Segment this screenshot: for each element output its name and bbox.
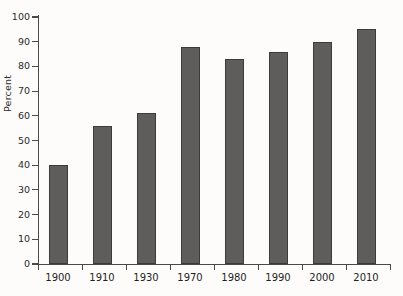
x-axis-tick <box>214 264 215 270</box>
bar-1970 <box>181 47 200 264</box>
x-axis-tick-label: 2000 <box>299 272 345 283</box>
bar-1900 <box>49 165 68 264</box>
x-axis-tick-label: 1930 <box>123 272 169 283</box>
x-axis-tick <box>126 264 127 270</box>
x-axis-tick <box>38 264 39 270</box>
plot-area <box>38 17 390 264</box>
x-axis-tick-label: 1990 <box>255 272 301 283</box>
bar-1990 <box>269 52 288 264</box>
y-axis-tick-label: 70 <box>0 85 30 96</box>
x-axis-tick-label: 1900 <box>35 272 81 283</box>
y-axis-tick <box>32 66 38 67</box>
y-axis-tick-label: 20 <box>0 209 30 220</box>
bar-2000 <box>313 42 332 264</box>
x-axis-tick <box>302 264 303 270</box>
bar-chart: Percent 01020304050607080901001900191019… <box>0 0 403 296</box>
y-axis-tick <box>32 140 38 141</box>
y-axis-title: Percent <box>2 42 13 112</box>
y-axis-tick <box>32 16 38 17</box>
x-axis-tick <box>258 264 259 270</box>
y-axis-tick-label: 0 <box>0 258 30 269</box>
y-axis-tick-label: 30 <box>0 184 30 195</box>
x-axis-end-tick <box>390 264 391 270</box>
y-axis-tick <box>32 214 38 215</box>
y-axis-tick <box>32 239 38 240</box>
y-axis-tick <box>32 165 38 166</box>
x-axis-tick <box>346 264 347 270</box>
bar-1930 <box>137 113 156 264</box>
bar-2010 <box>357 29 376 264</box>
x-axis-tick <box>170 264 171 270</box>
y-axis-tick-label: 80 <box>0 60 30 71</box>
y-axis-tick-label: 60 <box>0 110 30 121</box>
y-axis-tick <box>32 41 38 42</box>
y-axis-tick-label: 40 <box>0 159 30 170</box>
y-axis-tick <box>32 115 38 116</box>
x-axis-tick-label: 1970 <box>167 272 213 283</box>
x-axis-tick-label: 1980 <box>211 272 257 283</box>
y-axis-tick-label: 50 <box>0 135 30 146</box>
y-axis-tick <box>32 91 38 92</box>
y-axis-tick <box>32 189 38 190</box>
x-axis-tick <box>82 264 83 270</box>
x-axis-tick-label: 2010 <box>343 272 389 283</box>
bar-1980 <box>225 59 244 264</box>
y-axis-tick-label: 100 <box>0 11 30 22</box>
y-axis-tick-label: 90 <box>0 36 30 47</box>
y-axis-tick-label: 10 <box>0 233 30 244</box>
x-axis-tick-label: 1910 <box>79 272 125 283</box>
bar-1910 <box>93 126 112 264</box>
